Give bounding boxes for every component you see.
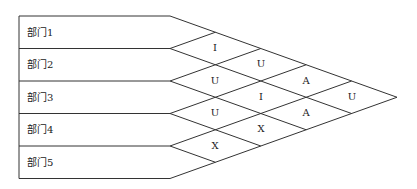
relation-code-2-4: I [253,91,269,103]
department-label-4: 部门4 [27,124,53,136]
relation-code-3-5: X [253,123,269,135]
relation-code-1-5: U [344,91,360,103]
relation-code-2-5: A [298,107,314,119]
department-label-3: 部门3 [27,92,53,104]
department-label-2: 部门2 [27,59,53,71]
relation-code-1-3: U [253,58,269,70]
relation-code-1-2: I [207,42,223,54]
department-label-5: 部门5 [27,157,53,169]
relation-code-1-4: A [298,75,314,87]
department-label-1: 部门1 [27,27,53,39]
relation-code-4-5: X [207,140,223,152]
relation-code-3-4: U [207,107,223,119]
relation-code-2-3: U [207,75,223,87]
